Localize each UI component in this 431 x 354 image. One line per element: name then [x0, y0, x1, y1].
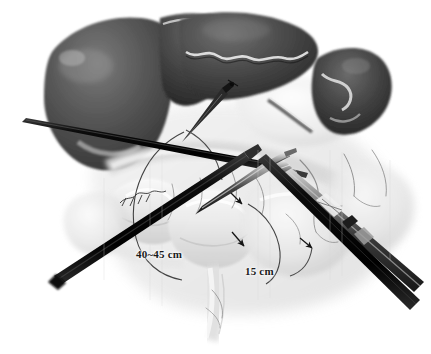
medical-illustration-figure: 40~45 cm 15 cm	[0, 0, 431, 354]
limb-length-label: 15 cm	[245, 265, 274, 277]
bowel-length-label: 40~45 cm	[136, 248, 182, 260]
illustration-canvas	[0, 0, 431, 354]
spleen	[312, 48, 392, 135]
